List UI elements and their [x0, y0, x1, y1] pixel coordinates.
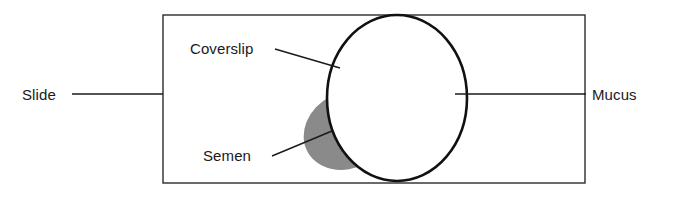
- diagram-canvas: Slide Coverslip Semen Mucus: [0, 0, 694, 198]
- label-semen: Semen: [203, 147, 251, 164]
- label-slide: Slide: [22, 86, 56, 103]
- slide-diagram: Slide Coverslip Semen Mucus: [0, 0, 694, 198]
- label-mucus: Mucus: [592, 86, 637, 103]
- coverslip-circle: [327, 15, 467, 181]
- label-coverslip: Coverslip: [190, 40, 253, 57]
